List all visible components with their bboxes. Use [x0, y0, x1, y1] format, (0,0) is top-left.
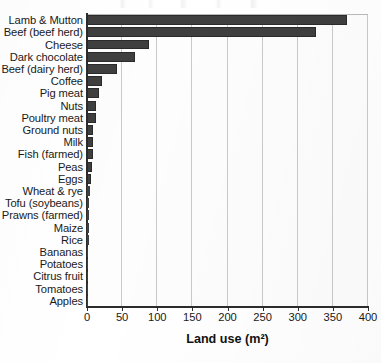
bar-row: Wheat & rye: [0, 185, 381, 197]
bar-peas: [87, 162, 92, 172]
x-tick-label-0: 0: [84, 311, 90, 323]
category-label-ground-nuts: Ground nuts: [23, 124, 83, 136]
bar-row: Bananas: [0, 246, 381, 258]
bar-row: Beef (beef herd): [0, 26, 381, 38]
bar-row: Ground nuts: [0, 124, 381, 136]
bar-row: Dark chocolate: [0, 51, 381, 63]
bar-beef-dairy-herd: [87, 64, 117, 74]
category-label-poultry-meat: Poultry meat: [21, 112, 83, 124]
bar-row: Citrus fruit: [0, 270, 381, 282]
bar-lamb-mutton: [87, 15, 347, 25]
category-label-rice: Rice: [61, 234, 83, 246]
category-label-cheese: Cheese: [45, 39, 83, 51]
category-label-bananas: Bananas: [40, 246, 83, 258]
bar-row: Rice: [0, 234, 381, 246]
bar-row: Fish (farmed): [0, 148, 381, 160]
category-label-beef-dairy-herd: Beef (dairy herd): [1, 63, 83, 75]
category-label-nuts: Nuts: [60, 100, 83, 112]
bar-nuts: [87, 101, 96, 111]
bar-row: Maize: [0, 222, 381, 234]
x-tick-label-400: 400: [359, 311, 378, 323]
bar-row: Tomatoes: [0, 283, 381, 295]
bar-row: Coffee: [0, 75, 381, 87]
x-tick-label-300: 300: [288, 311, 307, 323]
land-use-bar-chart: Lamb & MuttonBeef (beef herd)CheeseDark …: [0, 0, 381, 363]
bar-citrus-fruit: [87, 272, 88, 282]
bar-row: Milk: [0, 136, 381, 148]
x-tick-label-350: 350: [324, 311, 343, 323]
bar-tofu-soybeans: [87, 198, 89, 208]
bar-cheese: [87, 40, 149, 50]
category-label-tofu-soybeans: Tofu (soybeans): [5, 197, 83, 209]
bar-apples: [87, 296, 88, 306]
category-label-fish-farmed: Fish (farmed): [18, 148, 83, 160]
category-label-dark-chocolate: Dark chocolate: [10, 51, 83, 63]
x-tick-label-100: 100: [148, 311, 167, 323]
bar-wheat-rye: [87, 186, 90, 196]
x-axis-title: Land use (m²): [87, 332, 368, 346]
x-tick-label-200: 200: [218, 311, 237, 323]
bar-poultry-meat: [87, 113, 96, 123]
bar-pig-meat: [87, 88, 99, 98]
bar-row: Beef (dairy herd): [0, 63, 381, 75]
category-label-apples: Apples: [49, 295, 83, 307]
category-label-wheat-rye: Wheat & rye: [23, 185, 83, 197]
scan-artifact-top: [120, 0, 290, 8]
category-label-lamb-mutton: Lamb & Mutton: [8, 14, 83, 26]
bar-row: Eggs: [0, 173, 381, 185]
bar-row: Potatoes: [0, 258, 381, 270]
category-label-milk: Milk: [64, 136, 83, 148]
bar-maize: [87, 223, 89, 233]
bar-row: Nuts: [0, 99, 381, 111]
bar-row: Pig meat: [0, 87, 381, 99]
bar-tomatoes: [87, 284, 88, 294]
bar-row: Cheese: [0, 38, 381, 50]
bar-beef-beef-herd: [87, 27, 316, 37]
category-label-peas: Peas: [58, 161, 83, 173]
bar-bananas: [87, 247, 88, 257]
category-label-coffee: Coffee: [51, 75, 83, 87]
category-label-eggs: Eggs: [58, 173, 83, 185]
bar-row: Lamb & Mutton: [0, 14, 381, 26]
bar-eggs: [87, 174, 91, 184]
category-label-beef-beef-herd: Beef (beef herd): [4, 26, 83, 38]
bar-dark-chocolate: [87, 52, 135, 62]
category-label-prawns-farmed: Prawns (farmed): [2, 209, 83, 221]
bar-row: Poultry meat: [0, 112, 381, 124]
bar-coffee: [87, 76, 102, 86]
category-label-potatoes: Potatoes: [40, 258, 83, 270]
x-tick-label-50: 50: [116, 311, 128, 323]
category-label-pig-meat: Pig meat: [40, 87, 83, 99]
bar-fish-farmed: [87, 149, 93, 159]
bar-ground-nuts: [87, 125, 93, 135]
category-label-citrus-fruit: Citrus fruit: [33, 270, 83, 282]
bar-row: Peas: [0, 161, 381, 173]
bar-prawns-farmed: [87, 210, 89, 220]
bar-rice: [87, 235, 89, 245]
bar-row: Tofu (soybeans): [0, 197, 381, 209]
category-label-tomatoes: Tomatoes: [35, 283, 83, 295]
bar-row: Prawns (farmed): [0, 209, 381, 221]
x-tick-label-250: 250: [253, 311, 272, 323]
bar-rows: Lamb & MuttonBeef (beef herd)CheeseDark …: [0, 14, 381, 307]
bar-potatoes: [87, 259, 88, 269]
bar-milk: [87, 137, 93, 147]
x-tick-label-150: 150: [183, 311, 202, 323]
category-label-maize: Maize: [54, 222, 83, 234]
bar-row: Apples: [0, 295, 381, 307]
